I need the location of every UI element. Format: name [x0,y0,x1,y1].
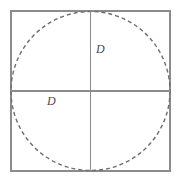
label-d-upper-right: D [96,43,105,55]
geometry-figure: D D [0,0,179,180]
label-d-lower-left: D [47,95,56,107]
figure-canvas [0,0,179,180]
